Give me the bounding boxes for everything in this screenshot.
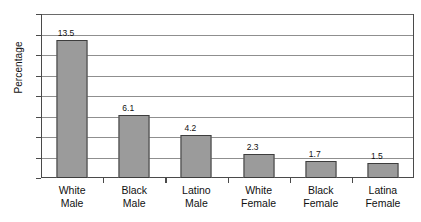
x-tick-mark: [290, 178, 291, 183]
bar-value-label: 2.3: [247, 143, 259, 152]
x-label-line-1: Black: [308, 184, 334, 196]
y-tick-mark: [36, 178, 41, 179]
x-label-line-2: Female: [290, 197, 352, 210]
x-label-line-1: Latino: [182, 184, 211, 196]
bar-slot: 4.2: [165, 14, 227, 178]
x-tick-mark: [228, 178, 229, 183]
x-axis-category-label: BlackMale: [103, 184, 165, 210]
bar-value-label: 1.5: [371, 152, 383, 161]
bar-slot: 1.7: [290, 14, 352, 178]
bar-slot: 13.5: [41, 14, 103, 178]
x-label-line-1: White: [59, 184, 86, 196]
bar[interactable]: [305, 161, 336, 178]
bars-group: 13.56.14.22.31.71.5: [41, 14, 414, 178]
bar-value-label: 13.5: [58, 29, 75, 38]
bar-slot: 1.5: [352, 14, 414, 178]
bar[interactable]: [57, 40, 88, 178]
x-axis-category-label: LatinoMale: [165, 184, 227, 210]
bar[interactable]: [243, 154, 274, 178]
x-tick-mark: [352, 178, 353, 183]
x-label-line-1: White: [245, 184, 272, 196]
x-tick-mark: [103, 178, 104, 183]
x-axis-category-label: WhiteFemale: [228, 184, 290, 210]
x-tick-mark: [165, 178, 166, 183]
x-label-line-2: Male: [103, 197, 165, 210]
x-label-line-2: Male: [41, 197, 103, 210]
x-axis-category-label: LatinaFemale: [352, 184, 414, 210]
x-label-line-2: Female: [228, 197, 290, 210]
bar[interactable]: [367, 163, 398, 178]
x-axis-category-label: WhiteMale: [41, 184, 103, 210]
x-label-line-2: Male: [165, 197, 227, 210]
x-label-line-1: Latina: [369, 184, 398, 196]
x-label-line-2: Female: [352, 197, 414, 210]
x-label-line-1: Black: [121, 184, 147, 196]
bar[interactable]: [181, 135, 212, 178]
bar-slot: 2.3: [228, 14, 290, 178]
bar-value-label: 4.2: [184, 124, 196, 133]
bar-chart: Percentage 1614121086420 13.56.14.22.31.…: [0, 0, 421, 222]
bar-value-label: 1.7: [309, 150, 321, 159]
bar[interactable]: [119, 115, 150, 178]
x-axis-labels: WhiteMaleBlackMaleLatinoMaleWhiteFemaleB…: [41, 184, 414, 220]
bar-value-label: 6.1: [122, 104, 134, 113]
x-axis-category-label: BlackFemale: [290, 184, 352, 210]
y-axis-title: Percentage: [13, 18, 24, 118]
bar-slot: 6.1: [103, 14, 165, 178]
